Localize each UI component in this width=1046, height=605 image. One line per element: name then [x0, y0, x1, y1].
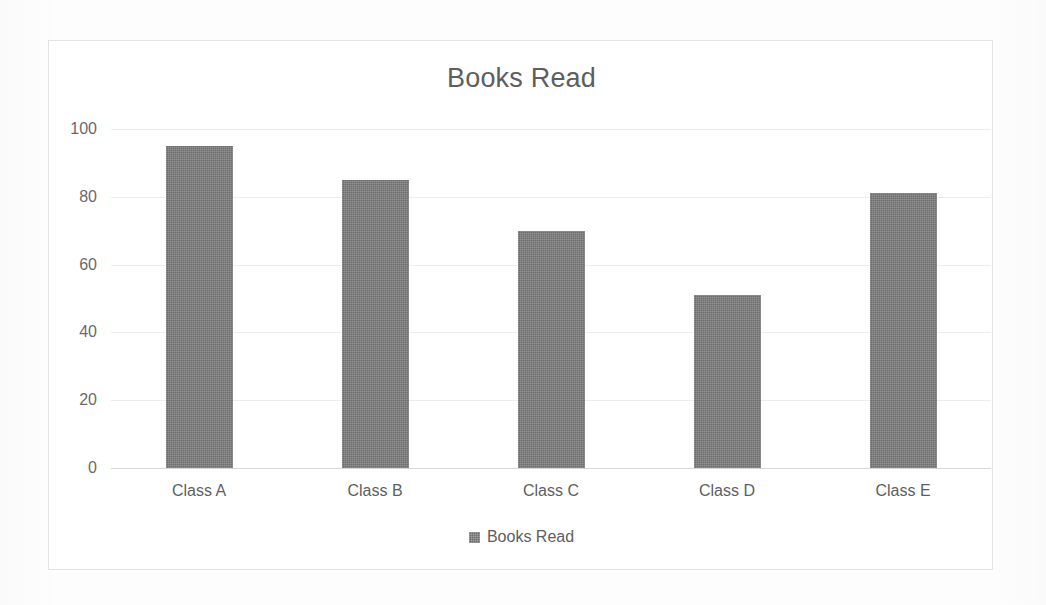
plot-area: 020406080100 Class AClass BClass CClass …: [111, 129, 991, 468]
chart-legend: Books Read: [49, 528, 994, 546]
x-axis-tick-label: Class E: [875, 482, 930, 500]
bar-slot: Class A: [111, 129, 287, 468]
x-axis-tick-label: Class B: [347, 482, 402, 500]
x-axis-tick-label: Class D: [699, 482, 755, 500]
y-axis-tick-label: 40: [79, 323, 97, 341]
chart-frame: Books Read 020406080100 Class AClass BCl…: [48, 40, 993, 570]
legend-label: Books Read: [487, 528, 574, 546]
bar: [166, 146, 233, 468]
y-axis-tick-label: 100: [70, 120, 97, 138]
scanned-page: Books Read 020406080100 Class AClass BCl…: [0, 0, 1046, 605]
y-axis-tick-label: 60: [79, 256, 97, 274]
bar-slot: Class E: [815, 129, 991, 468]
bar-slot: Class D: [639, 129, 815, 468]
bar-slot: Class C: [463, 129, 639, 468]
bar-slot: Class B: [287, 129, 463, 468]
y-axis-tick-label: 0: [88, 459, 97, 477]
bar-series: Class AClass BClass CClass DClass E: [111, 129, 991, 468]
bar: [342, 180, 409, 468]
gridline: [111, 468, 991, 469]
chart-title: Books Read: [49, 63, 994, 94]
x-axis-tick-label: Class C: [523, 482, 579, 500]
bar: [870, 193, 937, 468]
y-axis-tick-label: 80: [79, 188, 97, 206]
y-axis-tick-label: 20: [79, 391, 97, 409]
bar: [694, 295, 761, 468]
bar: [518, 231, 585, 468]
x-axis-tick-label: Class A: [172, 482, 226, 500]
legend-swatch-icon: [469, 532, 480, 543]
